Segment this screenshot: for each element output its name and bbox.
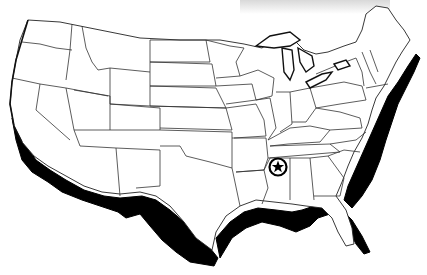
land <box>10 6 410 250</box>
us-map <box>0 0 427 275</box>
location-marker[interactable] <box>270 159 287 176</box>
